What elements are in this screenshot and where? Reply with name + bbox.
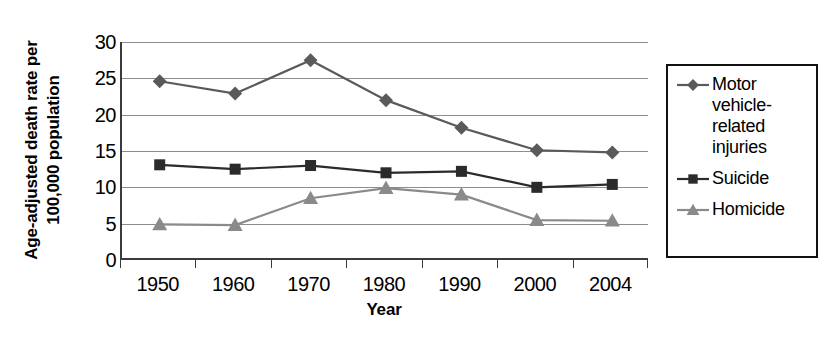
triangle-marker [379, 181, 394, 194]
legend-label: Motor vehicle-related injuries [712, 74, 810, 158]
legend-label: Suicide [712, 168, 769, 189]
x-tick-label: 1990 [438, 272, 481, 296]
square-marker [154, 159, 165, 170]
x-tick-mark [346, 260, 347, 268]
diamond-legend-icon [676, 75, 710, 95]
x-axis-tick-marks [120, 260, 648, 270]
x-axis-title: Year [120, 300, 648, 320]
x-tick-mark [647, 260, 648, 268]
y-tick-label: 15 [95, 141, 116, 161]
y-tick-label: 10 [95, 177, 116, 197]
y-tick-label: 0 [105, 250, 116, 270]
x-tick-mark [271, 260, 272, 268]
x-tick-mark [497, 260, 498, 268]
x-tick-label: 2000 [514, 272, 557, 296]
y-axis-title-line2: 100,000 population [43, 40, 65, 259]
x-tick-label: 1970 [287, 272, 330, 296]
square-marker [230, 164, 241, 175]
y-axis-title: Age-adjusted death rate per 100,000 popu… [0, 0, 86, 300]
y-tick-label: 5 [105, 214, 116, 234]
legend-label: Homicide [712, 199, 785, 220]
y-axis-tick-labels: 051015202530 [84, 32, 120, 268]
diamond-marker [153, 74, 167, 88]
square-marker [305, 160, 316, 171]
x-tick-label: 1950 [136, 272, 179, 296]
square-marker [456, 166, 467, 177]
diamond-marker [687, 79, 699, 91]
x-tick-mark [422, 260, 423, 268]
y-tick-label: 20 [95, 105, 116, 125]
legend-item: Homicide [676, 199, 810, 220]
chart-figure: Age-adjusted death rate per 100,000 popu… [0, 0, 838, 350]
square-marker [531, 182, 542, 193]
y-axis-title-line1: Age-adjusted death rate per [21, 40, 43, 259]
x-tick-label: 1980 [363, 272, 406, 296]
square-marker [688, 174, 697, 183]
legend-item: Motor vehicle-related injuries [676, 74, 810, 158]
square-marker [607, 179, 618, 190]
square-legend-icon [676, 169, 710, 189]
x-tick-mark [120, 260, 121, 268]
diamond-marker [454, 121, 468, 135]
diamond-marker [530, 143, 544, 157]
legend: Motor vehicle-related injuriesSuicideHom… [666, 64, 818, 258]
triangle-legend-icon [676, 200, 710, 220]
legend-item: Suicide [676, 168, 810, 189]
diamond-marker [228, 87, 242, 101]
y-tick-label: 30 [95, 32, 116, 52]
y-tick-label: 25 [95, 68, 116, 88]
x-tick-mark [573, 260, 574, 268]
diamond-marker [304, 53, 318, 67]
diamond-marker [379, 93, 393, 107]
square-marker [381, 167, 392, 178]
diamond-marker [605, 145, 619, 159]
x-tick-label: 2004 [589, 272, 632, 296]
series-layer [122, 42, 650, 260]
x-axis-tick-labels: 1950196019701980199020002004 [120, 272, 648, 298]
x-tick-mark [195, 260, 196, 268]
x-tick-label: 1960 [212, 272, 255, 296]
plot-area [120, 42, 648, 260]
